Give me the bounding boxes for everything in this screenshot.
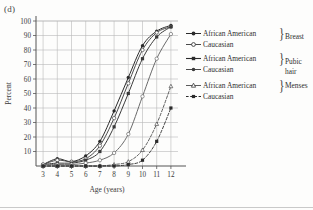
svg-text:9: 9 <box>127 171 131 179</box>
legend-group-menses: African American Caucasian }Menses <box>186 80 313 102</box>
svg-text:10: 10 <box>24 148 32 156</box>
svg-text:30: 30 <box>24 119 32 127</box>
legend-category-pubic-hair: Pubichair <box>285 53 302 77</box>
legend-item-menses-caucasian[interactable]: Caucasian <box>186 91 278 102</box>
legend-entries: African American Caucasian <box>186 53 278 75</box>
svg-text:70: 70 <box>24 61 32 69</box>
axis-lines <box>36 16 186 166</box>
legend-label: African American <box>203 54 256 63</box>
x-axis-title: Age (years) <box>89 185 125 194</box>
svg-text:6: 6 <box>84 171 88 179</box>
figure-panel: (d) 1020304050607080901003456789101112 A… <box>0 0 313 210</box>
legend-entries: African American Caucasian <box>186 80 278 102</box>
footer-rule <box>0 207 313 208</box>
legend-marker-filled-circle-icon <box>186 65 201 74</box>
legend-item-pubic-hair-african-american[interactable]: African American <box>186 53 278 64</box>
svg-text:40: 40 <box>24 105 32 113</box>
svg-text:80: 80 <box>24 47 32 55</box>
svg-text:3: 3 <box>41 171 45 179</box>
legend-group-pubic-hair: African American Caucasian }Pubichair <box>186 53 313 77</box>
svg-text:5: 5 <box>70 171 74 179</box>
legend-category-breast: Breast <box>285 28 304 42</box>
legend-item-breast-caucasian[interactable]: Caucasian <box>186 39 278 50</box>
legend-brace-icon: } <box>279 53 284 64</box>
legend-brace-icon: } <box>279 28 284 39</box>
legend-group-breast: African American Caucasian }Breast <box>186 28 313 50</box>
legend-marker-open-triangle-icon <box>186 81 201 90</box>
legend-entries: African American Caucasian <box>186 28 278 50</box>
svg-text:8: 8 <box>112 171 116 179</box>
legend-label: African American <box>203 29 256 38</box>
legend-category-line1: Pubic <box>285 57 302 66</box>
legend-marker-filled-circle-icon <box>186 29 201 38</box>
svg-text:20: 20 <box>24 134 32 142</box>
y-axis-title: Percent <box>4 81 13 104</box>
axis-tick-labels: 1020304050607080901003456789101112 <box>20 18 175 180</box>
svg-text:50: 50 <box>24 90 32 98</box>
legend-marker-open-circle-icon <box>186 40 201 49</box>
gridlines <box>36 21 178 166</box>
svg-text:12: 12 <box>167 171 175 179</box>
legend-brace-icon: } <box>279 80 284 91</box>
legend-item-pubic-hair-caucasian[interactable]: Caucasian <box>186 64 278 75</box>
legend-item-menses-african-american[interactable]: African American <box>186 80 278 91</box>
svg-text:90: 90 <box>24 32 32 40</box>
legend-category-menses: Menses <box>285 80 308 91</box>
data-series-curves <box>41 24 173 168</box>
legend-marker-filled-square-dashed-icon <box>186 92 201 101</box>
axis-ticks <box>33 21 171 169</box>
legend-label: Caucasian <box>203 92 233 101</box>
svg-text:4: 4 <box>56 171 60 179</box>
legend-category-line2: hair <box>285 67 297 76</box>
legend-label: African American <box>203 81 256 90</box>
legend-marker-filled-square-icon <box>186 54 201 63</box>
svg-text:11: 11 <box>153 171 160 179</box>
svg-text:7: 7 <box>98 171 102 179</box>
legend-item-breast-african-american[interactable]: African American <box>186 28 278 39</box>
svg-text:10: 10 <box>139 171 147 179</box>
chart-legend: African American Caucasian }Breast <box>186 28 313 105</box>
svg-text:60: 60 <box>24 76 32 84</box>
legend-label: Caucasian <box>203 65 233 74</box>
legend-label: Caucasian <box>203 40 233 49</box>
svg-text:100: 100 <box>20 18 31 26</box>
